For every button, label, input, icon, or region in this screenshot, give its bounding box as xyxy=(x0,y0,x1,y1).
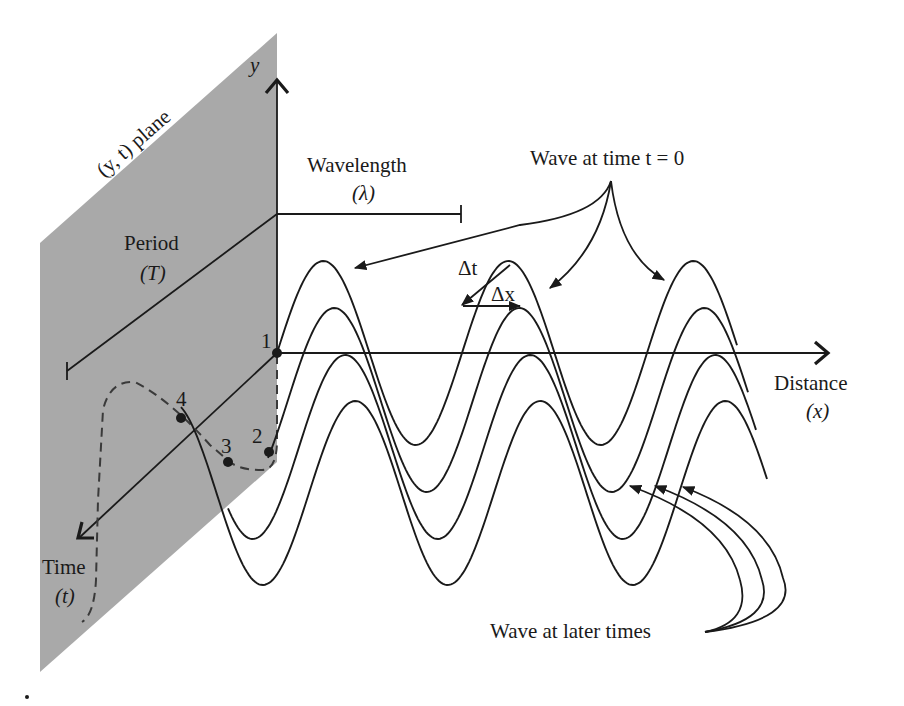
wave-later-label: Wave at later times xyxy=(490,619,651,643)
point-4 xyxy=(176,413,186,423)
delta-x-label: Δx xyxy=(491,282,516,306)
wavelength-label: Wavelength xyxy=(307,153,407,177)
stray-dot xyxy=(25,695,29,699)
point-1 xyxy=(272,348,282,358)
wave-later-pointer-3 xyxy=(683,487,786,632)
point-2-label: 2 xyxy=(252,424,263,448)
wave-diagram: (y, t) plane y Distance (x) Time (t) Wav… xyxy=(0,0,904,706)
delta-t-label: Δt xyxy=(458,256,478,280)
time-axis-symbol: (t) xyxy=(55,584,75,608)
x-axis-label: Distance xyxy=(774,371,847,395)
wavelength-symbol: (λ) xyxy=(352,181,375,205)
x-axis-symbol: (x) xyxy=(806,399,829,423)
wave-t2 xyxy=(228,355,756,539)
y-axis-label: y xyxy=(248,53,260,77)
wave-later-pointer-2 xyxy=(655,486,764,632)
wave-t1 xyxy=(268,308,748,492)
wave-t0-pointer-1 xyxy=(355,181,611,268)
wave-t0-pointer-3 xyxy=(611,181,664,280)
point-1-label: 1 xyxy=(261,329,272,353)
point-4-label: 4 xyxy=(176,387,187,411)
period-label: Period xyxy=(124,231,179,255)
point-3 xyxy=(223,457,233,467)
point-3-label: 3 xyxy=(221,434,232,458)
wave-t0-label: Wave at time t = 0 xyxy=(530,146,684,170)
period-symbol: (T) xyxy=(140,261,166,285)
point-2 xyxy=(264,447,274,457)
time-axis-label: Time xyxy=(42,555,86,579)
